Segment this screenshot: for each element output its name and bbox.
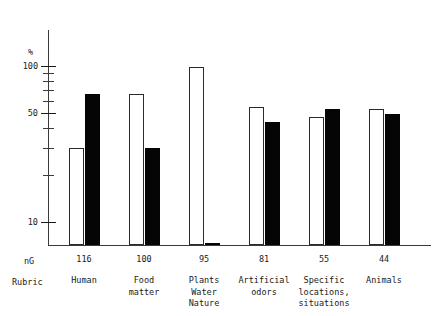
y-axis-unit-label: % [28,48,33,56]
bar-group [129,30,160,245]
group-name-line: Animals [348,275,420,287]
bar-filled [325,109,340,245]
group-count: 55 [294,255,354,264]
group-count: 81 [234,255,294,264]
group-count: 44 [354,255,414,264]
bar-group [369,30,400,245]
group-count: 95 [174,255,234,264]
bar-filled [205,243,220,245]
bar-open [129,94,144,245]
y-tick-label-100: 100 [0,62,38,70]
bar-filled [265,122,280,245]
bar-group [249,30,280,245]
bar-filled [85,94,100,245]
bar-open [189,67,204,245]
y-tick-label-10: 10 [0,218,38,226]
group-name-line: locations, [288,287,360,299]
group-name-line: situations [288,298,360,310]
bar-group [69,30,100,245]
plot-area [48,30,431,245]
bar-open [369,109,384,245]
x-axis-unit-label: nG [24,257,34,265]
bar-chart: % nG Rubric 1005010 116Human100Foodmatte… [0,0,448,316]
bar-open [69,148,84,245]
bar-group [189,30,220,245]
bar-filled [385,114,400,245]
bar-open [249,107,264,245]
group-name: Animals [348,275,420,287]
group-count: 100 [114,255,174,264]
row-header-rubric: Rubric [12,277,43,288]
x-axis-line [48,245,431,246]
bar-group [309,30,340,245]
group-count: 116 [54,255,114,264]
bar-open [309,117,324,245]
bar-filled [145,148,160,245]
y-tick-label-50: 50 [0,109,38,117]
group-name-line: Nature [168,298,240,310]
